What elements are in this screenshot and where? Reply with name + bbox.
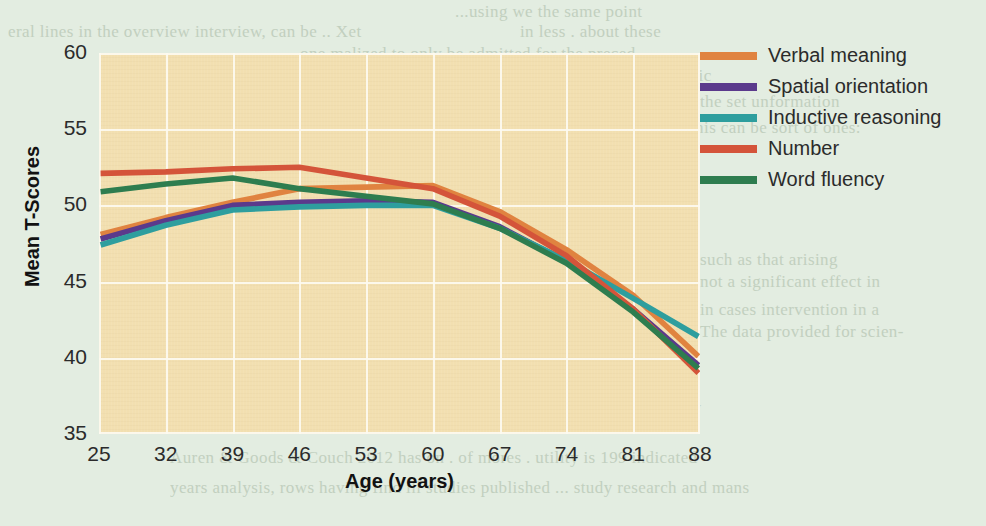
legend-color-swatch [700,145,757,153]
x-axis-tick: 25 [69,442,129,466]
legend-item: Verbal meaning [700,40,980,71]
x-axis-tick: 88 [670,442,730,466]
legend-color-swatch [700,52,757,60]
x-axis-tick: 53 [336,442,396,466]
legend-item: Spatial orientation [700,71,980,102]
legend-label: Verbal meaning [768,44,907,67]
series-line [101,205,699,336]
y-axis-tick: 40 [27,345,87,369]
series-line [101,186,699,357]
legend-color-swatch [700,114,757,122]
legend-label: Number [768,137,839,160]
figure-mean-t-scores-by-age: Mean T-Scores 354045505560 2532394653606… [0,0,986,526]
y-axis-tick: 50 [27,192,87,216]
y-axis-tick: 55 [27,116,87,140]
series-lines [99,53,700,434]
legend-label: Spatial orientation [768,75,928,98]
chart-legend: Verbal meaningSpatial orientationInducti… [700,40,980,195]
y-axis-tick: 45 [27,269,87,293]
y-axis-tick: 60 [27,40,87,64]
x-axis-tick: 60 [403,442,463,466]
legend-label: Word fluency [768,168,884,191]
x-axis-tick: 81 [603,442,663,466]
x-axis-label: Age (years) [99,470,700,493]
x-axis-tick: 46 [269,442,329,466]
legend-item: Number [700,133,980,164]
x-axis-tick: 67 [470,442,530,466]
legend-item: Inductive reasoning [700,102,980,133]
legend-item: Word fluency [700,164,980,195]
x-axis-tick: 39 [203,442,263,466]
legend-color-swatch [700,83,757,91]
x-axis-tick: 74 [536,442,596,466]
x-axis-tick: 32 [136,442,196,466]
plot-area [99,53,700,434]
legend-label: Inductive reasoning [768,106,941,129]
legend-color-swatch [700,176,757,184]
